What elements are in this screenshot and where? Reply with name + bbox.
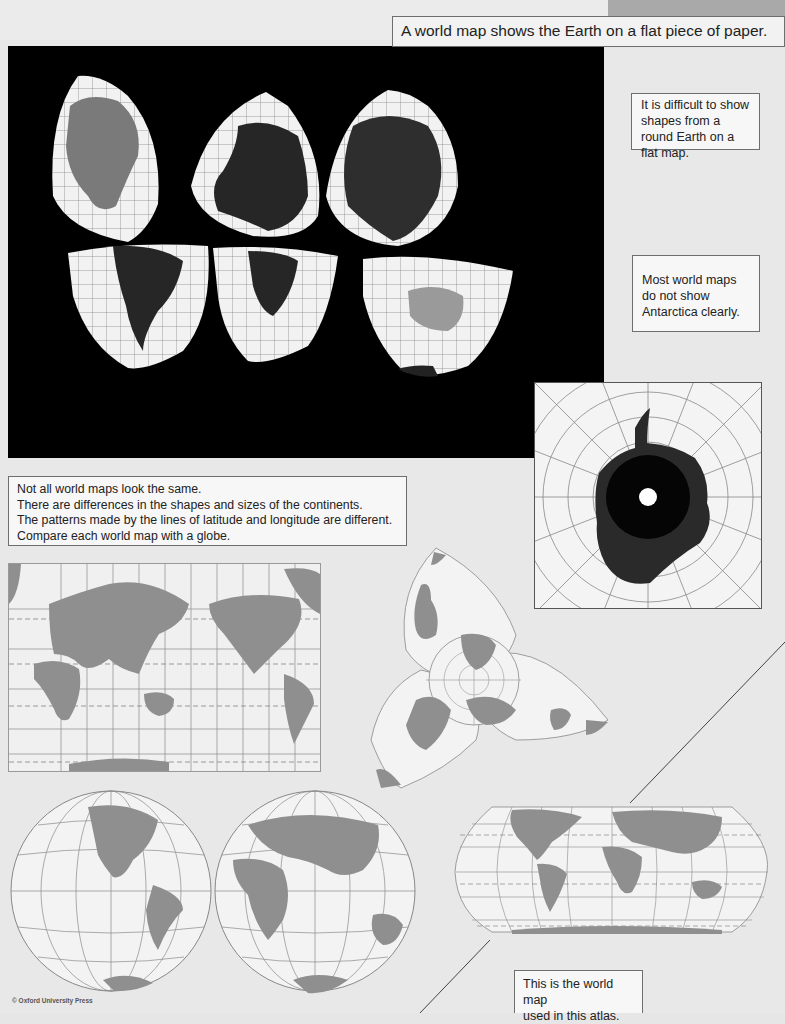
note-line: Most world maps xyxy=(642,272,751,288)
page-title-text: A world map shows the Earth on a flat pi… xyxy=(401,22,767,39)
gore-asia xyxy=(326,90,458,246)
note-line: The patterns made by the lines of latitu… xyxy=(17,513,398,529)
note-line: round Earth on a xyxy=(641,129,751,145)
note-line: Compare each world map with a globe. xyxy=(17,529,398,545)
note-line: do not show xyxy=(642,288,751,304)
rectangular-world-map xyxy=(8,563,321,772)
note-line: shapes from a xyxy=(641,113,751,129)
note-line: This is the world map xyxy=(523,976,634,1008)
note-line: flat map. xyxy=(641,145,751,161)
atlas-world-map xyxy=(452,802,772,940)
hemisphere-maps xyxy=(8,785,418,995)
western-hemisphere xyxy=(11,791,211,991)
note-line: It is difficult to show xyxy=(641,97,751,113)
note-line: Not all world maps look the same. xyxy=(17,482,398,498)
note-round-earth: It is difficult to show shapes from a ro… xyxy=(631,93,760,150)
gore-southern-africa xyxy=(213,247,338,362)
globe-gores-photo xyxy=(8,46,604,458)
gore-south-america xyxy=(68,245,209,369)
page-title: A world map shows the Earth on a flat pi… xyxy=(392,16,785,47)
interrupted-world-map xyxy=(366,540,614,790)
note-line: There are differences in the shapes and … xyxy=(17,498,398,514)
note-line: Antarctica clearly. xyxy=(642,304,751,320)
note-atlas-map: This is the world map used in this atlas… xyxy=(514,970,643,1013)
copyright-text: © Oxford University Press xyxy=(12,997,93,1004)
note-antarctica: Most world maps do not show Antarctica c… xyxy=(632,255,760,332)
eastern-hemisphere xyxy=(215,791,415,993)
note-line: used in this atlas. xyxy=(523,1008,634,1024)
gore-north-america xyxy=(52,76,158,242)
gore-australia xyxy=(363,257,513,377)
note-comparison: Not all world maps look the same. There … xyxy=(8,476,407,546)
gore-europe-africa xyxy=(191,92,319,237)
